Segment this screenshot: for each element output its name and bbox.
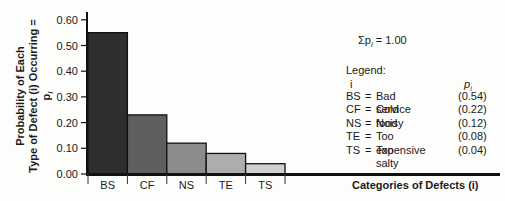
legend-equals: =	[365, 130, 371, 144]
legend-equals: =	[365, 103, 371, 117]
legend-code: TS	[346, 144, 360, 158]
bar-ns	[167, 143, 206, 174]
legend-probability: (0.08)	[458, 130, 487, 144]
bar-cf	[127, 115, 166, 174]
category-label-cf: CF	[127, 179, 166, 191]
category-label-ts: TS	[246, 179, 285, 191]
plot-area	[0, 0, 505, 201]
legend-probability: (0.54)	[458, 90, 487, 104]
legend-rows: BS=Bad service(0.54)CF=Cold food(0.22)NS…	[346, 90, 386, 158]
legend-title: Legend:	[346, 64, 386, 78]
legend-code: TE	[346, 130, 360, 144]
legend-name: Noisy	[376, 117, 404, 131]
legend-name: Too salty	[376, 144, 399, 171]
legend-entry-cf: CF=Cold food(0.22)	[346, 103, 386, 117]
legend-probability: (0.22)	[458, 103, 487, 117]
legend-probability: (0.12)	[458, 117, 487, 131]
category-label-te: TE	[206, 179, 245, 191]
category-label-bs: BS	[88, 179, 127, 191]
legend-equals: =	[365, 144, 371, 158]
sum-annotation: Σpi = 1.00	[358, 34, 407, 49]
legend-entry-bs: BS=Bad service(0.54)	[346, 90, 386, 104]
legend-entry-ns: NS=Noisy(0.12)	[346, 117, 386, 131]
x-axis-title: Categories of Defects (i)	[352, 179, 479, 191]
legend-header: i pi	[346, 78, 386, 90]
bars	[88, 33, 285, 174]
legend: Legend: i pi BS=Bad service(0.54)CF=Cold…	[346, 64, 386, 157]
legend-probability: (0.04)	[458, 144, 487, 158]
legend-code: CF	[346, 103, 361, 117]
bar-te	[206, 153, 245, 174]
legend-entry-te: TE=Too expensive(0.08)	[346, 130, 386, 144]
bar-bs	[88, 33, 127, 174]
legend-code: BS	[346, 90, 361, 104]
legend-entry-ts: TS=Too salty(0.04)	[346, 144, 386, 158]
chart: Probability of Each Type of Defect (i) O…	[0, 0, 505, 201]
legend-code: NS	[346, 117, 361, 131]
legend-equals: =	[365, 90, 371, 104]
category-label-ns: NS	[167, 179, 206, 191]
legend-equals: =	[365, 117, 371, 131]
bar-ts	[246, 164, 285, 174]
